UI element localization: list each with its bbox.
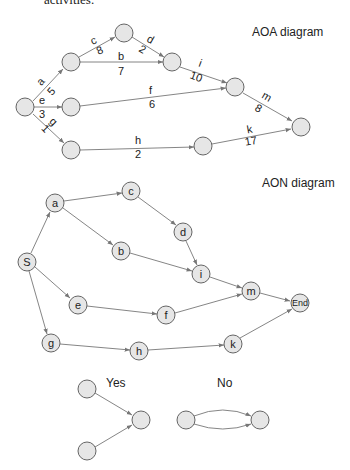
aon-edge-d-i <box>186 241 197 265</box>
aoa-duration-a: 5 <box>45 85 58 98</box>
aon-edge-k-end <box>240 309 292 338</box>
aoa-duration-g: 1 <box>39 122 52 135</box>
aoa-node-end <box>292 118 310 136</box>
aoa-node-6 <box>62 141 80 159</box>
yes-node-bottom <box>78 442 96 460</box>
aon-label-b: b <box>118 245 124 257</box>
aoa-title: AOA diagram <box>252 25 323 39</box>
aoa-duration-d: 2 <box>137 42 148 55</box>
aon-label-k: k <box>230 338 236 350</box>
yes-label: Yes <box>106 376 126 390</box>
aoa-node-7 <box>194 137 212 155</box>
aon-diagram: AON diagram S a b c d e f g h <box>18 176 335 360</box>
aon-label-end: End <box>292 298 308 308</box>
aon-edge-h-k <box>148 345 224 350</box>
aon-label-c: c <box>128 185 134 197</box>
aon-edge-c-d <box>138 197 176 225</box>
no-node-target <box>251 411 269 429</box>
aoa-edge-i <box>180 67 227 83</box>
aon-label-s: S <box>23 256 30 268</box>
yes-node-target <box>132 411 150 429</box>
aoa-label-i: i <box>197 57 203 69</box>
aon-edge-a-c <box>64 193 122 201</box>
network-diagrams: AOA diagram a 5 b 7 c 8 d 2 e 3 f 6 g 1 … <box>0 0 350 470</box>
aoa-label-e: e <box>39 94 45 106</box>
aoa-duration-i: 10 <box>189 69 205 84</box>
aoa-node-4 <box>62 98 80 116</box>
aoa-label-m: m <box>260 89 274 104</box>
aon-edge-a-b <box>63 208 113 245</box>
aoa-node-3 <box>163 53 181 71</box>
aoa-duration-e: 3 <box>39 108 45 120</box>
aon-label-h: h <box>136 345 142 357</box>
aoa-duration-c: 8 <box>94 43 105 56</box>
aon-edge-s-e <box>35 267 70 298</box>
aon-edge-s-a <box>31 212 50 253</box>
aon-label-e: e <box>75 299 81 311</box>
no-example: No <box>177 376 269 429</box>
aon-edge-g-h <box>60 344 130 350</box>
aon-edge-s-g <box>29 271 47 334</box>
aon-edge-m-end <box>260 293 290 301</box>
aoa-duration-f: 6 <box>149 98 155 110</box>
aon-edge-f-m <box>175 294 242 313</box>
aoa-label-a: a <box>34 74 48 87</box>
aoa-duration-k: 17 <box>244 134 258 148</box>
aon-edge-i-m <box>210 277 242 288</box>
aon-label-g: g <box>48 337 54 349</box>
yes-edge-top <box>95 393 132 415</box>
aoa-node-start <box>16 98 34 116</box>
no-label: No <box>217 376 233 390</box>
no-node-source <box>177 411 195 429</box>
aoa-node-1 <box>62 53 80 71</box>
aon-title: AON diagram <box>262 176 335 190</box>
aon-label-i: i <box>200 268 202 280</box>
aoa-node-2 <box>115 24 133 42</box>
aoa-label-h: h <box>135 134 141 146</box>
aon-edge-e-f <box>87 306 157 314</box>
yes-edge-bottom <box>95 425 132 447</box>
aoa-node-5 <box>226 78 244 96</box>
no-edge-lower <box>194 424 251 429</box>
aoa-diagram: AOA diagram a 5 b 7 c 8 d 2 e 3 f 6 g 1 … <box>16 24 323 160</box>
no-edge-upper <box>194 410 251 416</box>
yes-node-top <box>78 380 96 398</box>
aon-label-d: d <box>180 226 186 238</box>
yes-example: Yes <box>78 376 150 460</box>
aoa-duration-h: 2 <box>135 148 141 160</box>
aoa-label-f: f <box>149 84 153 96</box>
aoa-duration-m: 8 <box>253 101 264 114</box>
aon-edge-b-i <box>130 253 192 271</box>
aon-label-a: a <box>52 197 59 209</box>
aoa-duration-b: 7 <box>118 65 124 77</box>
aoa-label-b: b <box>118 50 124 62</box>
aon-label-m: m <box>246 285 255 297</box>
